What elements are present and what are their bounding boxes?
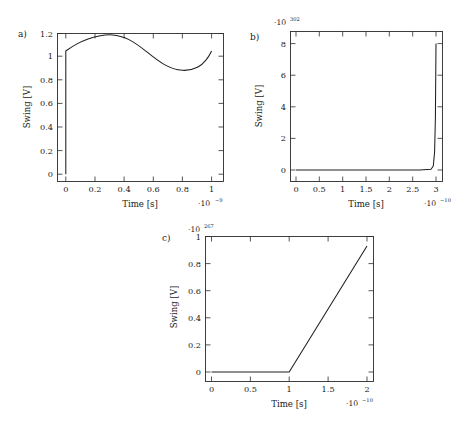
- panel-c-x-exponent: ·10 −10: [346, 397, 373, 408]
- panel-c-xtick-3: 1.5: [322, 384, 335, 394]
- panel-b-xtick-6: 3: [433, 184, 438, 194]
- panel-c-ytick-1: 0.2: [188, 340, 201, 350]
- panel-b-x-ticks: [296, 32, 436, 182]
- panel-c-x-exp-base: ·10: [346, 399, 358, 408]
- panel-a-ytick-0: 0: [48, 169, 53, 179]
- panel-c-ytick-3: 0.6: [188, 286, 201, 296]
- panel-c-xlabel: Time [s]: [271, 399, 307, 409]
- panel-b-xtick-5: 2.5: [406, 184, 419, 194]
- panel-a-ylabel: Swing [V]: [22, 86, 32, 129]
- panel-c-curve: [212, 246, 368, 372]
- panel-b-xtick-2: 1: [340, 184, 345, 194]
- panel-c-ytick-0: 0: [196, 367, 201, 377]
- panel-b-plot: b) ·10 302 0 2 4 6 8: [234, 0, 468, 215]
- panel-c-x-exp-sup: −10: [362, 397, 373, 403]
- panel-b-frame: [291, 32, 443, 182]
- panel-b-xlabel: Time [s]: [348, 199, 384, 209]
- panel-b-x-exp-sup: −10: [440, 197, 451, 203]
- panel-b-ytick-1: 2: [281, 133, 286, 143]
- panel-a-curve: [66, 35, 212, 174]
- panel-a-x-ticks: [66, 34, 212, 182]
- panel-a-xtick-5: 1: [209, 184, 214, 194]
- panel-b-y-exp-sup: 302: [290, 16, 300, 22]
- panel-b-xtick-4: 2: [387, 184, 392, 194]
- panel-c-y-exp-sup: 267: [204, 223, 214, 229]
- panel-a-x-exp-sup: −9: [215, 197, 223, 203]
- panel-b: b) ·10 302 0 2 4 6 8: [234, 0, 468, 215]
- panel-c-y-tick-labels: 0 0.2 0.4 0.6 0.8 1: [188, 232, 201, 377]
- panel-a: a) 0 0.2 0.4 0.6 0.8 1 1.2: [0, 0, 234, 215]
- panel-c-xtick-1: 0.5: [244, 384, 257, 394]
- panel-a-tag: a): [18, 29, 27, 39]
- panel-b-y-exp-base: ·10: [274, 18, 286, 27]
- panel-a-y-tick-labels: 0 0.2 0.4 0.6 0.8 1 1.2: [40, 29, 53, 180]
- panel-c-x-tick-labels: 0 0.5 1 1.5 2: [209, 384, 370, 394]
- panel-b-ytick-2: 4: [281, 102, 286, 112]
- panel-a-ytick-2: 0.4: [40, 122, 53, 132]
- panel-c-ytick-4: 0.8: [188, 259, 201, 269]
- panel-c-ylabel: Swing [V]: [169, 286, 179, 329]
- panel-c-tag: c): [162, 233, 171, 243]
- panel-c-frame: [206, 237, 374, 382]
- panel-c-ytick-5: 1: [196, 232, 201, 242]
- panel-a-xlabel: Time [s]: [122, 199, 158, 209]
- panel-b-tag: b): [250, 32, 259, 42]
- panel-c-x-ticks: [212, 237, 368, 382]
- panel-b-ytick-4: 8: [281, 39, 286, 49]
- panel-a-ytick-3: 0.6: [40, 98, 53, 108]
- panel-b-x-tick-labels: 0 0.5 1 1.5 2 2.5 3: [293, 184, 438, 194]
- panel-c-xtick-4: 2: [364, 384, 369, 394]
- panel-b-ytick-3: 6: [281, 70, 286, 80]
- panel-a-xtick-4: 0.8: [176, 184, 189, 194]
- panel-b-xtick-3: 1.5: [359, 184, 372, 194]
- panel-a-frame: [58, 34, 224, 182]
- panel-a-xtick-3: 0.6: [147, 184, 160, 194]
- panel-c-xtick-2: 1: [287, 384, 292, 394]
- panel-a-ytick-4: 0.8: [40, 75, 53, 85]
- panel-a-ytick-6: 1.2: [40, 29, 53, 39]
- panel-a-xtick-2: 0.4: [118, 184, 131, 194]
- panel-a-plot: a) 0 0.2 0.4 0.6 0.8 1 1.2: [0, 0, 234, 215]
- panel-a-xtick-1: 0.2: [88, 184, 101, 194]
- panel-c-y-ticks: [206, 237, 374, 373]
- panel-b-xtick-1: 0.5: [313, 184, 326, 194]
- panel-c: c) ·10 267 0 0.2 0.4 0.6 0.8 1: [117, 215, 417, 430]
- panel-a-x-tick-labels: 0 0.2 0.4 0.6 0.8 1: [63, 184, 214, 194]
- panel-a-ytick-5: 1: [48, 51, 53, 61]
- panel-b-ytick-0: 0: [281, 165, 286, 175]
- panel-b-x-exponent: ·10 −10: [424, 197, 451, 208]
- panel-b-curve: [296, 44, 436, 170]
- panel-a-y-ticks: [58, 34, 224, 175]
- panel-b-y-tick-labels: 0 2 4 6 8: [281, 39, 286, 175]
- panel-c-ytick-2: 0.4: [188, 313, 201, 323]
- panel-b-x-exp-base: ·10: [424, 199, 436, 208]
- panel-a-x-exp-base: ·10: [198, 199, 210, 208]
- panel-c-plot: c) ·10 267 0 0.2 0.4 0.6 0.8 1: [117, 215, 417, 430]
- panel-a-x-exponent: ·10 −9: [198, 197, 223, 208]
- panel-c-xtick-0: 0: [209, 384, 214, 394]
- panel-b-y-ticks: [291, 44, 443, 170]
- panel-a-ytick-1: 0.2: [40, 146, 53, 156]
- panel-b-ylabel: Swing [V]: [254, 85, 264, 128]
- panel-a-xtick-0: 0: [63, 184, 68, 194]
- panel-b-y-exponent: ·10 302: [274, 16, 300, 27]
- panel-b-xtick-0: 0: [293, 184, 298, 194]
